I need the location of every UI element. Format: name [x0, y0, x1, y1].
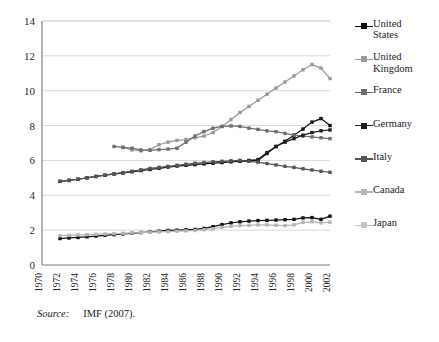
x-axis-tick-label: 1988 [196, 273, 206, 292]
y-axis-tick-label: 14 [24, 15, 36, 27]
series-marker [238, 111, 241, 114]
y-axis-tick-label: 8 [30, 120, 36, 132]
series-marker [310, 220, 313, 223]
series-marker [301, 127, 304, 130]
chart-legend: United StatesUnited KingdomFranceGermany… [355, 18, 439, 250]
series-marker [292, 74, 295, 77]
series-marker [112, 172, 115, 175]
series-marker [301, 221, 304, 224]
y-axis-tick-label: 12 [24, 50, 35, 62]
x-axis-tick-label: 1976 [88, 273, 98, 292]
series-marker [157, 148, 160, 151]
series-marker [274, 145, 277, 148]
series-marker [211, 131, 214, 134]
legend-item-label: United States [373, 18, 402, 41]
series-marker [283, 218, 286, 221]
legend-item[interactable]: United States [355, 18, 439, 51]
legend-square-icon [361, 222, 367, 228]
legend-marker-icon [355, 153, 373, 165]
x-axis-tick-label: 2000 [304, 273, 314, 292]
series-marker [139, 231, 142, 234]
series-marker [301, 216, 304, 219]
series-marker [85, 233, 88, 236]
x-axis-tick-label: 1974 [70, 273, 80, 292]
series-marker [94, 233, 97, 236]
x-axis-tick-label: 1978 [106, 273, 116, 292]
legend-square-icon [361, 123, 367, 129]
series-marker [85, 176, 88, 179]
series-marker [121, 146, 124, 149]
series-marker [148, 231, 151, 234]
series-marker [220, 125, 223, 128]
series-marker [229, 159, 232, 162]
series-marker [58, 180, 61, 183]
legend-square-icon [361, 189, 367, 195]
legend-marker-icon [355, 20, 373, 32]
source-label: Source: [37, 308, 69, 319]
legend-item[interactable]: United Kingdom [355, 51, 439, 84]
series-marker [328, 124, 331, 127]
series-marker [319, 170, 322, 173]
series-marker [265, 151, 268, 154]
series-marker [229, 221, 232, 224]
series-marker [67, 234, 70, 237]
series-marker [265, 93, 268, 96]
legend-marker-icon [355, 186, 373, 198]
legend-item[interactable]: France [355, 84, 439, 117]
series-marker [319, 117, 322, 120]
series-marker [175, 229, 178, 232]
series-marker [274, 86, 277, 89]
series-marker [310, 120, 313, 123]
series-marker [202, 228, 205, 231]
legend-item-label: Japan [373, 217, 397, 228]
series-marker [301, 68, 304, 71]
series-marker [229, 225, 232, 228]
series-marker [157, 143, 160, 146]
series-marker [121, 171, 124, 174]
series-marker [247, 160, 250, 163]
series-marker [175, 139, 178, 142]
series-marker [58, 234, 61, 237]
series-marker [256, 219, 259, 222]
y-axis-tick-label: 10 [24, 85, 36, 97]
legend-marker-icon [355, 86, 373, 98]
legend-marker-icon [355, 120, 373, 132]
series-marker [211, 160, 214, 163]
legend-item[interactable]: Germany [355, 118, 439, 151]
x-axis-tick-label: 1986 [178, 273, 188, 292]
series-marker [301, 167, 304, 170]
legend-item[interactable]: Japan [355, 217, 439, 250]
series-marker [193, 134, 196, 137]
series-marker [319, 66, 322, 69]
x-axis-tick-label: 1972 [52, 273, 62, 292]
series-marker [238, 224, 241, 227]
series-marker [166, 140, 169, 143]
series-marker [112, 232, 115, 235]
series-marker [319, 218, 322, 221]
legend-item[interactable]: Canada [355, 184, 439, 217]
x-axis-tick-label: 1970 [34, 273, 44, 292]
series-marker [229, 124, 232, 127]
series-marker [265, 129, 268, 132]
series-marker [220, 226, 223, 229]
series-marker [193, 162, 196, 165]
series-marker [328, 137, 331, 140]
x-axis-tick-label: 1990 [214, 273, 224, 292]
series-marker [256, 99, 259, 102]
y-axis-tick-label: 6 [30, 154, 36, 166]
series-marker [292, 223, 295, 226]
series-marker [175, 147, 178, 150]
legend-item[interactable]: Italy [355, 151, 439, 184]
legend-item-label: France [373, 84, 402, 95]
series-marker [94, 175, 97, 178]
series-marker [130, 147, 133, 150]
series-marker [256, 160, 259, 163]
x-axis-tick-label: 1996 [268, 273, 278, 292]
series-marker [238, 125, 241, 128]
series-marker [265, 223, 268, 226]
series-marker [292, 218, 295, 221]
series-marker [283, 224, 286, 227]
series-marker [292, 166, 295, 169]
series-marker [274, 130, 277, 133]
series-marker [202, 134, 205, 137]
